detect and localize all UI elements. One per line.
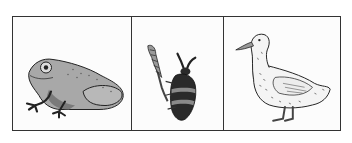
beetle-icon — [132, 17, 223, 130]
frog-icon — [13, 17, 131, 130]
panel-duck[interactable] — [223, 17, 340, 130]
image-strip — [12, 16, 341, 131]
panel-beetle[interactable] — [131, 17, 223, 130]
duck-icon — [224, 17, 340, 130]
panel-frog[interactable] — [13, 17, 131, 130]
